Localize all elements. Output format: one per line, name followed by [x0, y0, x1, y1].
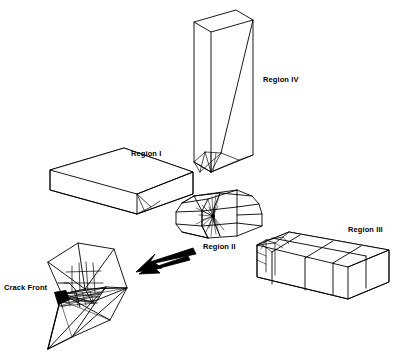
region-two-mesh: [176, 190, 262, 238]
region-one-mesh: [50, 148, 193, 214]
assembly-arrow: [136, 248, 196, 274]
label-crack-front: Crack Front: [4, 284, 47, 292]
crack-front-mesh: [48, 243, 127, 349]
crack-front-mesh-figure: Region I Region II Region III Region IV …: [0, 0, 408, 362]
label-region-four: Region IV: [263, 76, 299, 84]
label-region-two: Region II: [203, 243, 236, 251]
region-four-mesh: [194, 10, 253, 172]
diagram-canvas: [0, 0, 408, 362]
label-region-three: Region III: [348, 226, 383, 234]
label-region-one: Region I: [131, 150, 161, 158]
region-three-mesh: [257, 232, 389, 299]
